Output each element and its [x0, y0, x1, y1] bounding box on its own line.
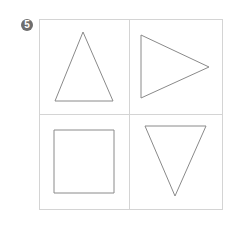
triangle-right-shape	[141, 35, 209, 98]
triangle-down-shape	[145, 126, 206, 196]
square-shape	[54, 130, 114, 193]
triangle-up-shape	[55, 32, 113, 101]
shapes-grid-diagram	[0, 0, 236, 228]
grid-lines	[40, 20, 223, 210]
